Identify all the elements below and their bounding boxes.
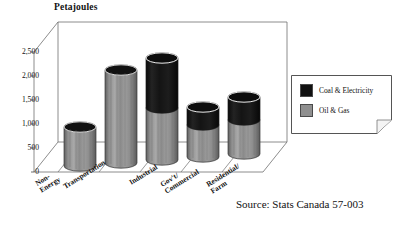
bar-industrial <box>146 53 178 165</box>
legend-label-oil-gas: Oil & Gas <box>319 106 349 115</box>
legend-item-oil-gas[interactable]: Oil & Gas <box>300 104 349 117</box>
y-tick-500: 500 <box>5 144 39 152</box>
source-note: Source: Stats Canada 57-003 <box>236 198 363 210</box>
legend: Coal & Electricity Oil & Gas <box>291 75 392 134</box>
legend-item-coal-electricity[interactable]: Coal & Electricity <box>300 84 373 97</box>
y-tick-1500: 1,500 <box>5 96 39 104</box>
chart-container: Petajoules <box>0 0 401 231</box>
bar-residential-farm <box>228 92 260 159</box>
bar-govt-commercial <box>187 102 219 162</box>
y-tick-1000: 1,000 <box>5 120 39 128</box>
bar-transportation <box>105 65 137 168</box>
y-tick-2000: 2,000 <box>5 72 39 80</box>
y-axis-ticks: 2,500 2,000 1,500 1,000 500 0 <box>0 0 39 231</box>
legend-swatch-coal-electricity <box>300 84 313 97</box>
legend-swatch-oil-gas <box>300 104 313 117</box>
y-tick-2500: 2,500 <box>5 48 39 56</box>
y-tick-0: 0 <box>5 168 39 176</box>
legend-label-coal-electricity: Coal & Electricity <box>319 86 373 95</box>
